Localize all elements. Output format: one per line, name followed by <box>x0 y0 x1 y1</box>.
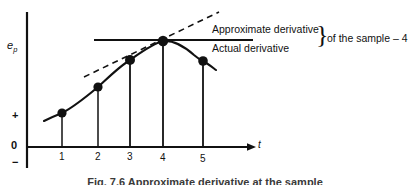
approximate-derivative-label: Approximate derivative <box>212 24 319 35</box>
figure-caption: Fig. 7.6 Approximate derivative at the s… <box>0 176 410 185</box>
x-tick-label-2: 2 <box>95 152 101 162</box>
x-tick-label-3: 3 <box>127 152 133 162</box>
sample-point-1 <box>57 108 66 117</box>
origin-label: 0 <box>11 140 17 151</box>
actual-derivative-label: Actual derivative <box>212 43 289 54</box>
positive-sign-label: + <box>12 110 18 121</box>
x-axis-arrow-icon <box>247 143 256 151</box>
sample-point-4 <box>158 36 168 46</box>
sample-reference-label: of the sample – 4 <box>327 33 408 44</box>
y-axis-label: ep <box>7 40 17 54</box>
figure-container: ep + 0 − 1 2 3 4 5 t Approximate derivat… <box>0 0 410 185</box>
sample-point-2 <box>93 82 102 91</box>
x-tick-label-1: 1 <box>59 152 65 162</box>
x-tick-label-4: 4 <box>160 153 166 163</box>
negative-sign-label: − <box>12 157 18 168</box>
approximate-derivative-dashed-line <box>84 12 219 77</box>
x-tick-label-5: 5 <box>200 154 206 164</box>
sample-point-5 <box>198 56 208 66</box>
y-axis-label-subscript: p <box>13 45 17 54</box>
sample-point-3 <box>125 55 135 65</box>
x-axis-label: t <box>258 140 261 150</box>
